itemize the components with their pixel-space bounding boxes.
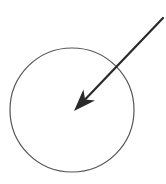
diagram-canvas [0,0,166,184]
diagram-svg [0,0,166,184]
arrow-shaft [84,18,163,100]
